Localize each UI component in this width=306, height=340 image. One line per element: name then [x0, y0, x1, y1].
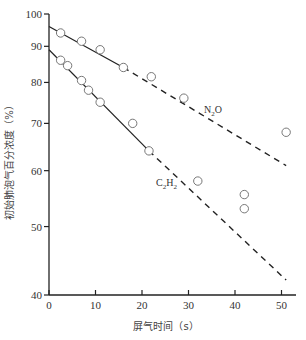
data-point-c2h2	[96, 98, 104, 106]
data-point-c2h2	[77, 76, 85, 84]
series-label-n2o: N2O	[204, 104, 222, 118]
data-point-c2h2	[240, 190, 248, 198]
data-point-n2o	[180, 94, 188, 102]
fit-lines	[49, 27, 286, 281]
x-axis-title: 屏气时间（s）	[133, 320, 198, 332]
data-point-c2h2	[56, 56, 64, 64]
data-point-n2o	[77, 37, 85, 45]
data-point-c2h2	[240, 204, 248, 212]
data-point-n2o	[282, 128, 290, 136]
data-point-n2o	[96, 46, 104, 54]
y-tick-label: 90	[31, 40, 43, 52]
series-labels: N2O C2H2	[156, 104, 222, 191]
y-tick-label: 50	[31, 221, 43, 233]
fit-line-dashed-c2h2	[149, 151, 286, 280]
y-tick-label: 60	[31, 165, 43, 177]
data-point-c2h2	[129, 119, 137, 127]
x-tick-label: 50	[276, 299, 288, 311]
y-axis-title: 初始肺泡气百分浓度（%）	[3, 100, 15, 220]
chart: 40506070809010001020304050 N2O C2H2 屏气时间…	[0, 0, 306, 340]
y-tick-label: 100	[26, 8, 43, 20]
series-label-c2h2: C2H2	[156, 177, 177, 191]
data-point-c2h2	[194, 177, 202, 185]
data-point-c2h2	[145, 147, 153, 155]
data-point-c2h2	[84, 86, 92, 94]
y-tick-label: 40	[31, 289, 43, 301]
data-point-c2h2	[63, 61, 71, 69]
axes: 40506070809010001020304050	[26, 8, 297, 311]
data-point-n2o	[147, 73, 155, 81]
x-tick-label: 20	[137, 299, 149, 311]
y-tick-label: 80	[31, 76, 43, 88]
data-point-n2o	[56, 29, 64, 37]
data-point-n2o	[119, 63, 127, 71]
x-tick-label: 0	[46, 299, 52, 311]
y-tick-label: 70	[31, 117, 43, 129]
x-tick-label: 30	[183, 299, 195, 311]
x-tick-label: 10	[90, 299, 102, 311]
x-tick-label: 40	[230, 299, 242, 311]
